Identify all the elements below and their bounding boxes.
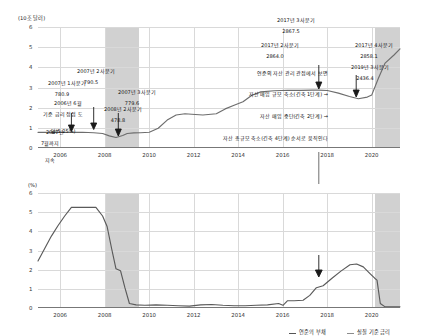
annotation-2017q3-value: 2867.5 xyxy=(255,29,327,35)
annotation-2006-peak-line2: 기준 금리 정점 도 xyxy=(30,112,96,118)
annotation-2007-july-line3: 지속 xyxy=(31,158,69,164)
fed-liabilities-panel: (10조 달러) xyxy=(0,0,423,180)
bottom-arrow-layer xyxy=(38,193,400,308)
bottom-plot-area xyxy=(38,193,400,308)
annotation-2008q2-value: 478.8 xyxy=(88,118,148,124)
bottom-xtick-2010: 2010 xyxy=(142,312,156,318)
bottom-ytick-4: 4 xyxy=(29,228,32,234)
legend-swatch-fed-liabilities xyxy=(289,333,296,334)
bottom-x-axis xyxy=(38,307,400,308)
top-xtick-2010: 2010 xyxy=(142,152,156,158)
note-block: 연준의 자산 관리 관점에서 보면 자산 매입 규모 축소(긴축 1단계) → … xyxy=(188,55,328,157)
annotation-2007-until-july: 2007년 7월까지 지속 xyxy=(31,124,69,174)
top-xtick-2008: 2008 xyxy=(98,152,112,158)
annotation-2017q3-label: 2017년 3사분기 xyxy=(277,17,315,23)
bottom-ytick-3: 3 xyxy=(29,248,32,254)
top-ytick-4: 4 xyxy=(29,64,32,70)
annotation-2006-peak-line1: 2006년 6월 xyxy=(54,100,82,106)
top-xtick-2020: 2020 xyxy=(365,152,379,158)
note-block-line3: 자산 매입 중단(긴축 2단계) → xyxy=(188,113,328,120)
legend-label-fed-liabilities: 연준의 부채 xyxy=(299,330,326,336)
bottom-xtick-2008: 2008 xyxy=(98,312,112,318)
real-policy-rate-panel: (%) xyxy=(0,180,423,336)
bottom-ytick-6: 6 xyxy=(29,190,32,196)
annotation-2007-july-line1: 2007년 xyxy=(46,129,64,135)
annotation-2017q2-label: 2017년 2사분기 xyxy=(261,42,299,48)
bottom-xtick-2020: 2020 xyxy=(365,312,379,318)
bottom-y-unit-label: (%) xyxy=(28,183,37,189)
bottom-xtick-2018: 2018 xyxy=(320,312,334,318)
annotation-2019q3-value: 2436.4 xyxy=(329,76,401,82)
annotation-2008q2: 2008년 2사분기 478.8 xyxy=(88,101,148,135)
bottom-ytick-5: 5 xyxy=(29,209,32,215)
top-y-unit-label: (10조 달러) xyxy=(18,16,45,22)
annotation-2019q3: 2019년 3사분기 2436.4 xyxy=(329,59,401,93)
annotation-2008q2-label: 2008년 2사분기 xyxy=(104,106,142,112)
annotation-2007-july-line2: 7월까지 xyxy=(31,141,69,147)
top-ytick-5: 5 xyxy=(29,44,32,50)
bottom-xtick-2016: 2016 xyxy=(276,312,290,318)
legend-swatch-real-policy-rate xyxy=(347,333,354,334)
legend-label-real-policy-rate: 실질 기준 금리 xyxy=(357,330,390,336)
note-block-line2: 자산 매입 규모 축소(긴축 1단계) → xyxy=(188,91,328,98)
chart-figure: (10조 달러) xyxy=(0,0,423,336)
note-block-line1: 연준의 자산 관리 관점에서 보면 xyxy=(188,70,328,77)
bottom-xtick-2014: 2014 xyxy=(231,312,245,318)
bottom-ytick-0: 0 xyxy=(29,305,32,311)
top-ytick-6: 6 xyxy=(29,24,32,30)
bottom-xtick-2006: 2006 xyxy=(53,312,67,318)
bottom-ytick-1: 1 xyxy=(29,286,32,292)
annotation-2007q2-label: 2007년 2사분기 xyxy=(77,68,115,74)
note-block-line4: 자산 총규모 축소(긴축 4단계) 순서로 움직인다 xyxy=(188,135,328,142)
bottom-ytick-2: 2 xyxy=(29,267,32,273)
annotation-2007q3-label: 2007년 3사분기 xyxy=(118,89,156,95)
annotation-2007q1-label: 2007년 1사분기 xyxy=(48,80,86,86)
bottom-xtick-2012: 2012 xyxy=(187,312,201,318)
annotation-2019q3-label: 2019년 3사분기 xyxy=(351,64,389,70)
annotation-2017q4-label: 2017년 4사분기 xyxy=(355,42,393,48)
